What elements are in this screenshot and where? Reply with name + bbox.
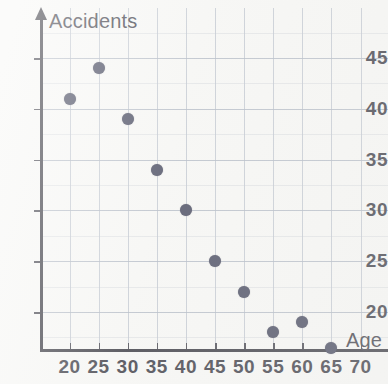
gridline-horizontal (41, 210, 388, 211)
data-point (64, 93, 76, 105)
gridline-vertical (99, 8, 100, 350)
gridline-horizontal-minor (41, 337, 388, 338)
gridline-vertical (70, 8, 71, 350)
gridline-vertical (186, 8, 187, 350)
x-axis-title: Age (346, 329, 382, 352)
gridline-vertical (244, 8, 245, 350)
gridline-horizontal (41, 109, 388, 110)
gridline-horizontal-minor (41, 134, 388, 135)
gridline-vertical (331, 8, 332, 350)
plot-area: 454035302520 2025303540455055606570 Acci… (0, 0, 388, 384)
y-axis-tick-label: 25 (356, 250, 388, 272)
gridline-horizontal-minor (41, 83, 388, 84)
y-axis-tick-label: 30 (356, 199, 388, 221)
gridline-horizontal-minor (41, 287, 388, 288)
y-axis-line (40, 18, 43, 351)
gridline-vertical (128, 8, 129, 350)
y-axis-tick-label: 45 (356, 47, 388, 69)
gridline-horizontal (41, 160, 388, 161)
data-point (122, 113, 134, 125)
gridline-horizontal-minor (41, 185, 388, 186)
data-point (93, 62, 105, 74)
gridline-horizontal-minor (41, 236, 388, 237)
data-point (151, 164, 163, 176)
data-point (325, 342, 337, 354)
x-axis-tick-label: 70 (344, 356, 378, 378)
y-axis-arrow-icon (35, 7, 47, 20)
data-point (238, 286, 250, 298)
data-point (180, 204, 192, 216)
scatter-plot-figure: 454035302520 2025303540455055606570 Acci… (0, 0, 388, 384)
gridline-vertical (157, 8, 158, 350)
gridline-vertical (215, 8, 216, 350)
y-axis-tick-label: 20 (356, 301, 388, 323)
y-axis-tick-label: 35 (356, 149, 388, 171)
y-axis-title: Accidents (49, 10, 138, 33)
gridline-horizontal (41, 58, 388, 59)
data-point (209, 255, 221, 267)
gridline-vertical (302, 8, 303, 350)
data-point (296, 316, 308, 328)
gridline-vertical (273, 8, 274, 350)
gridline-horizontal (41, 312, 388, 313)
y-axis-tick-label: 40 (356, 98, 388, 120)
